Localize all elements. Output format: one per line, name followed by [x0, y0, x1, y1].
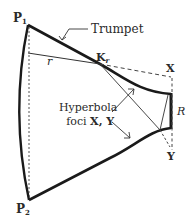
- foci-points: X, Y: [90, 115, 114, 128]
- label-r-big: R: [177, 106, 185, 117]
- label-p2: P2: [16, 203, 30, 216]
- trumpet-hyperbola-diagram: P1 P2 Trumpet Kr r X Y R Hyperbola foci …: [0, 0, 191, 218]
- p2-text: P: [16, 202, 25, 216]
- right-thin-line-1: [160, 95, 168, 130]
- k-subscript: r: [106, 56, 110, 65]
- label-y: Y: [167, 151, 175, 162]
- trumpet-bottom-edge: [29, 128, 171, 200]
- trumpet-arrowhead: [59, 36, 66, 40]
- hyperbola-line-1: Hyperbola: [59, 101, 117, 115]
- trumpet-leader-arrow: [62, 29, 69, 40]
- label-hyperbola: Hyperbola foci X, Y: [59, 101, 117, 129]
- p1-text: P: [13, 11, 22, 25]
- label-trumpet: Trumpet: [91, 23, 143, 35]
- lower-dashed-line: [160, 130, 170, 147]
- hyperbola-line-2: foci X, Y: [59, 115, 117, 129]
- left-arc-edge: [19, 25, 29, 200]
- foci-prefix: foci: [66, 115, 90, 128]
- label-p1: P1: [13, 12, 27, 25]
- label-r-small: r: [47, 56, 52, 67]
- label-k-r: Kr: [96, 52, 109, 64]
- k-text: K: [96, 51, 106, 64]
- label-x: X: [166, 63, 175, 74]
- p1-subscript: 1: [22, 17, 27, 26]
- p2-subscript: 2: [25, 208, 30, 217]
